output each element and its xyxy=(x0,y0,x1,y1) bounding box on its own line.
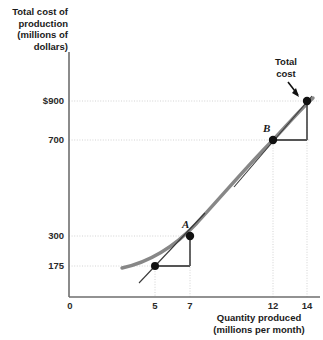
x-tick-label-14: 14 xyxy=(297,300,317,311)
y-tick-label-300: 300 xyxy=(20,230,64,241)
gridlines-vertical xyxy=(155,101,307,297)
marker-point-14-900 xyxy=(303,97,311,105)
x-tick-label-5: 5 xyxy=(145,300,165,311)
y-tick-label-900: $900 xyxy=(20,95,64,106)
y-tick-label-700: 700 xyxy=(20,134,64,145)
total-cost-arrow xyxy=(288,82,299,97)
x-tick-label-0: 0 xyxy=(60,300,80,311)
gridlines-horizontal xyxy=(69,101,319,266)
y-axis-title: Total cost of production (millions of do… xyxy=(4,6,68,52)
total-cost-curve xyxy=(122,98,313,268)
cost-curve-chart: Total cost of production (millions of do… xyxy=(0,0,323,340)
x-tick-label-7: 7 xyxy=(180,300,200,311)
x-tick-label-12: 12 xyxy=(263,300,283,311)
axes xyxy=(69,52,320,297)
marker-point-b xyxy=(269,136,277,144)
x-axis-title: Quantity produced (millions per month) xyxy=(198,312,320,335)
total-cost-curve-label: Total cost xyxy=(264,56,308,79)
point-label-b: B xyxy=(263,122,270,134)
marker-point-a xyxy=(186,232,194,240)
marker-point-5-175 xyxy=(151,262,159,270)
tangent-a xyxy=(139,213,205,283)
y-tick-label-175: 175 xyxy=(20,260,64,271)
point-label-a: A xyxy=(182,218,189,230)
